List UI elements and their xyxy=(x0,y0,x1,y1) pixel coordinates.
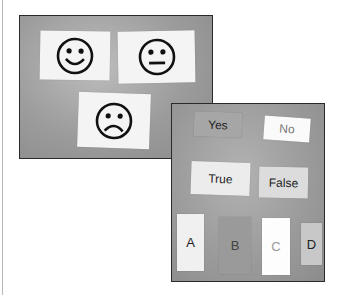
no-card: No xyxy=(263,115,311,142)
d-card: D xyxy=(301,223,322,265)
c-card: C xyxy=(262,218,290,275)
answer-cards-photo: Yes No True False A B C D xyxy=(171,103,325,282)
true-card: True xyxy=(190,161,250,196)
sad-face-icon xyxy=(93,100,134,141)
a-card: A xyxy=(177,214,204,271)
false-card: False xyxy=(259,167,309,199)
happy-face-icon xyxy=(55,35,96,76)
sad-face-card xyxy=(77,92,151,149)
yes-card: Yes xyxy=(194,111,243,138)
neutral-face-icon xyxy=(136,37,177,78)
neutral-face-card xyxy=(118,30,196,83)
page-margin-line xyxy=(2,0,3,295)
happy-face-card xyxy=(40,30,111,80)
b-card: B xyxy=(219,217,251,274)
